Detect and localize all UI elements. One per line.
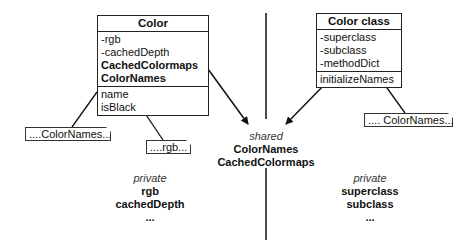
shared-caption: shared	[206, 130, 326, 143]
color-attributes: -rgb -cachedDepth CachedColormaps ColorN…	[98, 32, 208, 86]
private-right-superclass: superclass	[325, 185, 415, 198]
attribute-method-dict: -methodDict	[320, 57, 398, 70]
connector-name-to-note	[72, 92, 97, 127]
arrow-color-to-shared	[208, 69, 248, 124]
private-left-cached-depth: cachedDepth	[100, 198, 200, 211]
method-initialize-names: initializeNames	[320, 73, 398, 86]
attribute-color-names: ColorNames	[101, 72, 205, 85]
shared-cached-colormaps: CachedColormaps	[206, 156, 326, 169]
color-metaclass-box: Color class -superclass -subclass -metho…	[316, 13, 402, 88]
private-right-ellipsis: ...	[325, 211, 415, 224]
attribute-superclass: -superclass	[320, 31, 398, 44]
private-right-subclass: subclass	[325, 198, 415, 211]
color-class-methods: initializeNames	[317, 71, 401, 87]
private-left-rgb: rgb	[100, 185, 200, 198]
private-left-caption: private	[100, 172, 200, 185]
color-class-box: Color -rgb -cachedDepth CachedColormaps …	[97, 15, 209, 116]
private-left-label: private rgb cachedDepth ...	[100, 172, 200, 224]
attribute-cached-depth: -cachedDepth	[101, 46, 205, 59]
attribute-subclass: -subclass	[320, 44, 398, 57]
method-name: name	[101, 88, 205, 101]
private-right-caption: private	[325, 172, 415, 185]
note-right-colornames: .... ColorNames...	[364, 113, 453, 127]
shared-color-names: ColorNames	[206, 143, 326, 156]
attribute-cached-colormaps: CachedColormaps	[101, 59, 205, 72]
note-left-colornames: ....ColorNames...	[25, 127, 111, 141]
note-rgb: ....rgb...	[146, 140, 191, 154]
color-box-title: Color	[98, 16, 208, 32]
color-class-box-title: Color class	[317, 14, 401, 30]
color-methods: name isBlack	[98, 86, 208, 115]
private-right-label: private superclass subclass ...	[325, 172, 415, 224]
method-is-black: isBlack	[101, 101, 205, 114]
private-left-ellipsis: ...	[100, 211, 200, 224]
attribute-rgb: -rgb	[101, 33, 205, 46]
shared-label: shared ColorNames CachedColormaps	[206, 130, 326, 169]
color-class-attributes: -superclass -subclass -methodDict	[317, 30, 401, 71]
